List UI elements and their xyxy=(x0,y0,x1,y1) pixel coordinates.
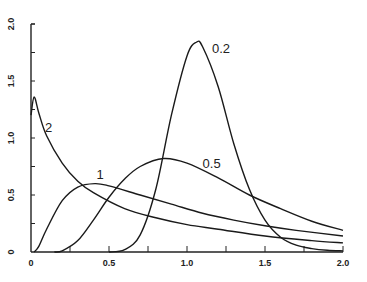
x-tick-label: 2.0 xyxy=(337,258,350,268)
y-tick-label: 1.0 xyxy=(6,132,16,145)
x-tick-label: 1.0 xyxy=(181,258,194,268)
curve-1 xyxy=(34,184,343,252)
curve-label: 2 xyxy=(45,120,52,135)
y-tick-label: 0.5 xyxy=(6,189,16,202)
y-tick-label: 1.5 xyxy=(6,75,16,88)
curve-label: 0.2 xyxy=(212,41,230,56)
curves: 0.20.512 xyxy=(31,41,343,253)
y-tick-label: 2.0 xyxy=(6,18,16,31)
density-chart: 00.51.01.52.000.51.01.52.0 0.20.512 xyxy=(0,0,367,282)
y-tick-label: 0 xyxy=(6,249,16,254)
x-tick-label: 0.5 xyxy=(103,258,116,268)
curve-2 xyxy=(31,97,343,243)
x-tick-label: 1.5 xyxy=(259,258,272,268)
curve-label: 0.5 xyxy=(203,156,221,171)
x-tick-label: 0 xyxy=(28,258,33,268)
curve-label: 1 xyxy=(97,167,104,182)
